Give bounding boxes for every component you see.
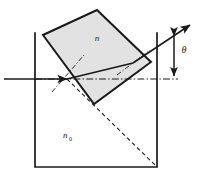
- theta-angle-label: θ: [182, 44, 187, 55]
- medium-index-subscript: 0: [69, 136, 72, 142]
- medium-index-base: n: [63, 130, 68, 140]
- optics-figure: n n 0 θ: [0, 0, 199, 174]
- prism-index-label: n: [95, 33, 100, 43]
- ray-diagram-canvas: n n 0 θ: [0, 0, 199, 174]
